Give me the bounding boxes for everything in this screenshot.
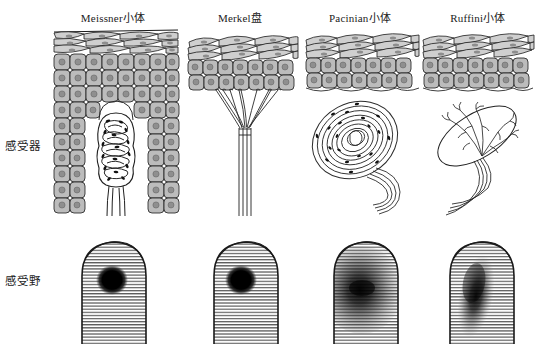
row-label-receptor: 感受器 — [5, 137, 41, 153]
receptor-panel-pacinian: Large onion-like concentric lamellar cap… — [303, 28, 421, 218]
pacinian-diagram — [303, 28, 421, 218]
column-title-pacinian: Pacinian小体 — [300, 9, 420, 25]
field-panel-pacinian: Large diffuse gradient covering most of … — [316, 228, 426, 346]
fingertip-pacinian — [316, 228, 426, 346]
column-title-merkel: Merkel盘 — [180, 9, 300, 25]
field-panel-meissner: Small sharply bounded dark spot on finge… — [64, 228, 174, 346]
merkel-diagram — [185, 28, 300, 218]
mechanoreceptor-figure: Meissner小体 Merkel盘 Pacinian小体 Ruffini小体 … — [0, 0, 538, 353]
pacinian-afferent-fiber — [367, 168, 400, 214]
dermal-boundary-pacinian — [306, 88, 419, 91]
column-title-ruffini: Ruffini小体 — [418, 9, 538, 25]
ruffini-diagram — [420, 28, 536, 218]
receptor-panel-meissner: Encapsulated coiled nerve ending in derm… — [52, 28, 180, 218]
column-title-meissner: Meissner小体 — [48, 9, 178, 25]
fingertip-meissner — [64, 228, 174, 346]
receptor-panel-ruffini: Elongated spindle capsule with branching… — [420, 28, 536, 218]
merkel-afferent-fiber — [239, 128, 251, 216]
field-panel-ruffini: Large elongated diffuse band oriented al… — [432, 228, 538, 346]
meissner-afferent-fiber — [107, 186, 125, 216]
receptor-panel-merkel: Single axon branching into multiple disc… — [185, 28, 300, 218]
fingertip-merkel — [196, 228, 306, 346]
meissner-diagram — [52, 28, 180, 218]
stratum-corneum-meissner — [54, 30, 178, 54]
receptive-field-spot-merkel — [225, 265, 257, 295]
merkel-axon-branches — [215, 89, 281, 128]
fingertip-ruffini — [432, 228, 538, 346]
ruffini-afferent-fiber — [446, 158, 491, 215]
field-panel-merkel: Small sharply bounded dark spot on finge… — [196, 228, 306, 346]
meissner-corpuscle — [97, 113, 135, 187]
dermal-boundary-ruffini — [423, 88, 533, 91]
row-label-receptive-field: 感受野 — [5, 272, 41, 288]
receptive-field-spot-meissner — [96, 265, 128, 295]
receptive-field-core-pacinian — [349, 280, 375, 296]
ruffini-corpuscle — [428, 94, 526, 178]
